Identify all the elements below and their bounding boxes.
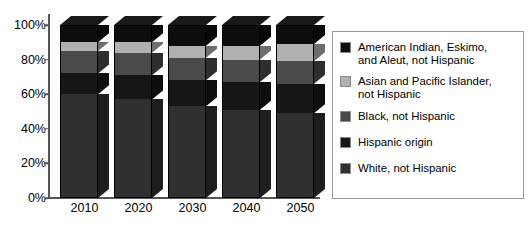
bar-group[interactable] [222, 14, 260, 198]
legend-swatch-white [340, 163, 351, 174]
plot-area: 100%80%60%40%20%0% 20102020203020402050 [0, 0, 330, 231]
bar-segment[interactable] [222, 82, 260, 110]
y-axis-line [48, 14, 50, 198]
y-axis-tick-label: 20% [2, 157, 46, 170]
legend-item-label: White, not Hispanic [358, 162, 456, 175]
legend-item-label: American Indian, Eskimo, and Aleut, not … [358, 41, 487, 66]
bar-segment[interactable] [222, 46, 260, 60]
bar-segment[interactable] [60, 42, 98, 51]
bar-top-face [168, 16, 217, 25]
bar-segment-side-face [206, 46, 217, 58]
x-axis-tick-label: 2050 [271, 202, 331, 215]
bar-segment-side-face [98, 51, 109, 73]
legend-item[interactable]: Hispanic origin [340, 136, 520, 149]
bar-segment[interactable] [168, 58, 206, 80]
bar-segment-side-face [152, 25, 163, 42]
bar-segment[interactable] [222, 110, 260, 198]
y-axis-tick-mark [44, 93, 48, 95]
legend-item[interactable]: Black, not Hispanic [340, 110, 520, 123]
bar-group[interactable] [60, 14, 98, 198]
y-axis-tick-label: 0% [2, 192, 46, 205]
bar-segment[interactable] [222, 25, 260, 46]
bar-segment-side-face [152, 42, 163, 52]
bar-segment-side-face [152, 99, 163, 198]
chart-legend: American Indian, Eskimo, and Aleut, not … [332, 31, 524, 199]
bar-segment-side-face [314, 44, 325, 61]
y-axis-tick-mark [44, 197, 48, 199]
bar-segment-side-face [152, 75, 163, 99]
bar-segment-side-face [260, 82, 271, 110]
bar-segment[interactable] [222, 60, 260, 82]
legend-item[interactable]: American Indian, Eskimo, and Aleut, not … [340, 41, 520, 66]
bar-top-face [60, 16, 109, 25]
bar-segment-side-face [206, 58, 217, 80]
legend-swatch-black [340, 111, 351, 122]
bar-segment-side-face [152, 53, 163, 75]
bar-segment[interactable] [114, 99, 152, 198]
bar-segment[interactable] [114, 42, 152, 52]
y-axis-tick-mark [44, 163, 48, 165]
bar-top-face [276, 16, 325, 25]
legend-item[interactable]: White, not Hispanic [340, 162, 520, 175]
bar-segment[interactable] [276, 44, 314, 61]
legend-item-label: Black, not Hispanic [358, 110, 455, 123]
bar-segment-side-face [260, 60, 271, 82]
bar-segment[interactable] [276, 25, 314, 44]
bar-segment-side-face [98, 42, 109, 51]
bar-segment[interactable] [60, 73, 98, 94]
bar-segment-side-face [206, 80, 217, 106]
y-axis-tick-labels: 100%80%60%40%20%0% [0, 0, 46, 231]
bar-segment[interactable] [114, 53, 152, 75]
y-axis-tick-label: 80% [2, 53, 46, 66]
bar-segment-side-face [314, 25, 325, 44]
bar-segment-side-face [206, 106, 217, 198]
bar-segment-side-face [206, 25, 217, 46]
x-axis-tick-label: 2030 [163, 202, 223, 215]
bar-segment[interactable] [114, 25, 152, 42]
legend-item-label: Hispanic origin [358, 136, 433, 149]
bar-segment-side-face [314, 84, 325, 113]
bar-segment-side-face [260, 110, 271, 198]
y-axis-tick-label: 100% [2, 19, 46, 32]
bar-segment[interactable] [168, 25, 206, 46]
legend-swatch-hispanic [340, 137, 351, 148]
bar-segment[interactable] [60, 25, 98, 42]
bar-segment[interactable] [168, 46, 206, 58]
bar-segment[interactable] [276, 61, 314, 83]
bar-segment-side-face [314, 61, 325, 83]
stacked-bar-chart-figure: 100%80%60%40%20%0% 20102020203020402050 … [0, 0, 531, 231]
bar-segment-side-face [260, 46, 271, 60]
bar-group[interactable] [168, 14, 206, 198]
bar-segment-side-face [260, 25, 271, 46]
legend-item[interactable]: Asian and Pacific Islander, not Hispanic [340, 75, 520, 100]
bar-segment[interactable] [276, 84, 314, 113]
legend-swatch-american-indian [340, 42, 351, 53]
bar-segment[interactable] [276, 113, 314, 198]
bar-segment-side-face [98, 73, 109, 94]
bar-segment-side-face [314, 113, 325, 198]
y-axis-tick-label: 60% [2, 88, 46, 101]
y-axis-tick-label: 40% [2, 123, 46, 136]
bar-segment[interactable] [168, 106, 206, 198]
legend-item-label: Asian and Pacific Islander, not Hispanic [358, 75, 492, 100]
bar-segment-side-face [98, 94, 109, 198]
bar-group[interactable] [276, 14, 314, 198]
bar-segment[interactable] [114, 75, 152, 99]
x-axis-tick-label: 2040 [217, 202, 277, 215]
bar-segment[interactable] [168, 80, 206, 106]
y-axis-tick-mark [44, 59, 48, 61]
y-axis-tick-mark [44, 24, 48, 26]
bar-segment-side-face [98, 25, 109, 42]
bar-group[interactable] [114, 14, 152, 198]
x-axis-tick-label: 2020 [109, 202, 169, 215]
bar-segment[interactable] [60, 51, 98, 73]
x-axis-tick-label: 2010 [55, 202, 115, 215]
legend-swatch-asian-pacific-islander [340, 76, 351, 87]
bar-top-face [114, 16, 163, 25]
bar-segment[interactable] [60, 94, 98, 198]
y-axis-tick-mark [44, 128, 48, 130]
bar-top-face [222, 16, 271, 25]
